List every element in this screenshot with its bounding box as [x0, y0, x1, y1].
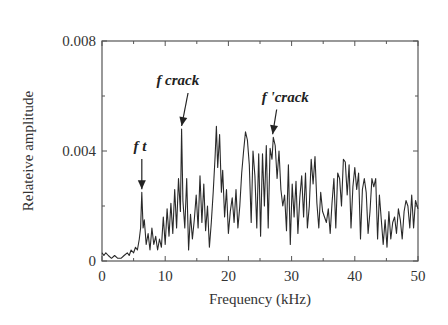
- annotation-label: f 'crack: [262, 89, 310, 105]
- x-tick-label: 50: [411, 268, 426, 284]
- y-tick-label: 0.008: [62, 33, 96, 49]
- y-tick-labels: 00.0040.008: [62, 33, 96, 269]
- x-tick-label: 30: [284, 268, 299, 284]
- y-axis-label: Relateive amplitude: [20, 90, 36, 211]
- x-axis-label: Frequency (kHz): [209, 291, 311, 308]
- x-tick-labels: 01020304050: [98, 268, 425, 284]
- y-tick-label: 0: [89, 253, 97, 269]
- arrowhead-icon: [138, 180, 146, 189]
- x-tick-label: 20: [221, 268, 236, 284]
- x-tick-label: 10: [158, 268, 173, 284]
- x-tick-label: 0: [98, 268, 106, 284]
- arrowhead-icon: [179, 116, 187, 126]
- peak-annotations: f tf crackf 'crack: [133, 72, 309, 189]
- arrowhead-icon: [270, 125, 278, 135]
- annotation-label: f t: [133, 138, 147, 154]
- spectrum-line: [102, 126, 418, 258]
- x-tick-label: 40: [347, 268, 362, 284]
- annotation-label: f crack: [156, 72, 199, 88]
- spectrum-chart: 01020304050 00.0040.008 f tf crackf 'cra…: [0, 0, 448, 325]
- y-tick-label: 0.004: [62, 143, 96, 159]
